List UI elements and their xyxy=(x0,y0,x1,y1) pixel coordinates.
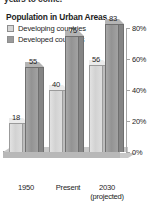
bar-developing-present-front xyxy=(49,90,63,152)
x-category-present: Present xyxy=(56,183,80,192)
value-label-developed-1950: 55 xyxy=(29,57,37,66)
y-tick-40 xyxy=(126,90,130,91)
value-label-developed-present: 75 xyxy=(69,26,77,35)
y-tick-label-20: 20% xyxy=(132,117,146,126)
x-category-2030-projected: (projected) xyxy=(90,192,124,201)
bar-developed-present xyxy=(65,36,79,152)
bar-developing-1950 xyxy=(9,123,23,152)
y-tick-80 xyxy=(126,28,130,29)
y-tick-label-80: 80% xyxy=(132,24,146,33)
value-label-developing-2030: 56 xyxy=(92,55,100,64)
y-tick-20 xyxy=(126,121,130,122)
value-label-developed-2030: 83 xyxy=(109,14,117,23)
bar-developed-present-side xyxy=(79,36,84,152)
figure-page: years to come. Population in Urban Areas… xyxy=(0,0,161,205)
bar-developed-present-front xyxy=(65,36,79,152)
floor-front-face xyxy=(3,151,120,158)
bar-developed-1950 xyxy=(25,67,39,152)
bar-developed-1950-side xyxy=(39,67,44,152)
bar-developing-1950-front xyxy=(9,123,23,152)
y-tick-60 xyxy=(126,59,130,60)
y-tick-0 xyxy=(126,152,130,153)
bar-developed-1950-front xyxy=(25,67,39,152)
clipped-body-text: years to come. xyxy=(4,0,154,4)
bar-developed-2030-side xyxy=(119,24,124,152)
x-category-1950: 1950 xyxy=(18,183,34,192)
y-tick-label-40: 40% xyxy=(132,86,146,95)
bar-developing-2030-front xyxy=(89,65,103,152)
plot-area: 0% 20% 40% 60% 80% 18 55 xyxy=(0,20,161,180)
value-label-developing-1950: 18 xyxy=(12,113,20,122)
x-category-2030: 2030 xyxy=(99,183,115,192)
y-tick-label-60: 60% xyxy=(132,55,146,64)
bar-developed-2030 xyxy=(105,24,119,152)
bar-developed-2030-front xyxy=(105,24,119,152)
y-tick-label-0: 0% xyxy=(132,148,142,157)
value-label-developing-present: 40 xyxy=(52,80,60,89)
bar-developing-present xyxy=(49,90,63,152)
bar-developing-2030 xyxy=(89,65,103,152)
